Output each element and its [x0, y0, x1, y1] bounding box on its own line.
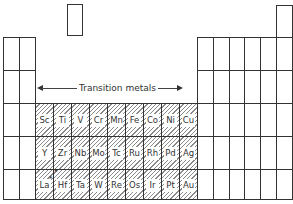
- element-cell: Ru: [125, 136, 144, 170]
- element-symbol: Y: [38, 147, 51, 160]
- p-block-cell: [213, 37, 230, 71]
- p-block-cell: [260, 103, 277, 137]
- p-block-cell: [213, 103, 230, 137]
- element-symbol: Mo: [92, 147, 105, 160]
- element-cell: Ir: [143, 169, 162, 200]
- p-block-cell: [229, 37, 245, 71]
- s-block-cell: [3, 37, 20, 71]
- element-cell: Rh: [143, 136, 162, 170]
- p-block-cell: [276, 103, 293, 137]
- element-cell: Zr: [53, 136, 72, 170]
- element-cell: Mo: [89, 136, 108, 170]
- element-symbol: W: [92, 179, 105, 192]
- element-cell: Tc: [107, 136, 126, 170]
- element-symbol: Ti: [56, 114, 69, 127]
- p-block-cell: [197, 136, 214, 170]
- s-block-cell: [19, 103, 36, 137]
- element-cell: Au: [179, 169, 198, 200]
- element-cell: Mn: [107, 103, 126, 137]
- element-symbol: Sc: [38, 114, 51, 127]
- p-block-cell: [229, 103, 245, 137]
- p-block-cell: [213, 169, 230, 200]
- element-cell: Hf*: [53, 169, 72, 200]
- element-cell: Ni: [161, 103, 180, 137]
- p-block-cell: [276, 70, 293, 104]
- element-cell: Pt: [161, 169, 180, 200]
- p-block-cell: [213, 70, 230, 104]
- p-block-cell: [276, 37, 293, 71]
- element-cell: Nb: [71, 136, 90, 170]
- element-cell: Co: [143, 103, 162, 137]
- element-symbol: Ni: [164, 114, 177, 127]
- element-symbol: Ag: [182, 147, 195, 160]
- p-block-cell: [276, 136, 293, 170]
- p-block-cell: [213, 136, 230, 170]
- p-block-cell: [244, 169, 261, 200]
- element-cell: V: [71, 103, 90, 137]
- element-symbol: Mn: [110, 114, 123, 127]
- element-symbol: Ir: [146, 179, 159, 192]
- element-symbol: Rh: [146, 147, 159, 160]
- p-block-cell: [229, 169, 245, 200]
- actinide-marker: *: [54, 168, 58, 176]
- p-block-cell: [197, 37, 214, 71]
- element-symbol: V: [74, 114, 87, 127]
- element-cell: W: [89, 169, 108, 200]
- p-block-cell: [244, 70, 261, 104]
- element-cell: Pd: [161, 136, 180, 170]
- element-symbol: Ta: [74, 179, 87, 192]
- p-block-cell: [229, 136, 245, 170]
- p-block-cell: [244, 103, 261, 137]
- element-symbol: Pt: [164, 179, 177, 192]
- p-block-cell: [260, 37, 277, 71]
- element-symbol: Cr: [92, 114, 105, 127]
- element-symbol: Fe: [128, 114, 141, 127]
- element-cell: Cu: [179, 103, 198, 137]
- element-symbol: Tc: [110, 147, 123, 160]
- element-cell: Os: [125, 169, 144, 200]
- element-cell: Sc: [35, 103, 54, 137]
- element-cell: Ta: [71, 169, 90, 200]
- s-block-cell: [3, 136, 20, 170]
- s-block-cell: [19, 70, 36, 104]
- element-cell: Y: [35, 136, 54, 170]
- element-symbol: Ru: [128, 147, 141, 160]
- element-cell: Ti: [53, 103, 72, 137]
- element-symbol: Au: [182, 179, 195, 192]
- element-symbol: Zr: [56, 147, 69, 160]
- element-symbol: Re: [110, 179, 123, 192]
- p-block-cell: [197, 103, 214, 137]
- s-block-cell: [19, 169, 36, 200]
- s-block-cell: [3, 169, 20, 200]
- element-symbol: Hf: [56, 179, 69, 192]
- s-block-cell: [3, 70, 20, 104]
- s-block-cell: [19, 136, 36, 170]
- element-symbol: Co: [146, 114, 159, 127]
- p-block-cell: [260, 169, 277, 200]
- p-block-cell: [229, 70, 245, 104]
- transition-metals-text: Transition metals: [77, 82, 158, 94]
- arrow-right-icon: [177, 85, 183, 91]
- element-symbol: Nb: [74, 147, 87, 160]
- element-cell: La*: [35, 169, 54, 200]
- element-cell: Re: [107, 169, 126, 200]
- p-block-cell: [197, 169, 214, 200]
- s-block-cell: [19, 37, 36, 71]
- element-cell: Ag: [179, 136, 198, 170]
- p-block-cell: [244, 37, 261, 71]
- element-symbol: Pd: [164, 147, 177, 160]
- lanthanide-marker: *: [49, 175, 53, 183]
- p-block-cell: [244, 136, 261, 170]
- p-block-cell: [197, 70, 214, 104]
- p-block-cell: [260, 70, 277, 104]
- element-symbol: Cu: [182, 114, 195, 127]
- element-cell: Fe: [125, 103, 144, 137]
- element-symbol: Os: [128, 179, 141, 192]
- s-block-cell: [3, 103, 20, 137]
- helium-cell: [276, 5, 293, 38]
- hydrogen-cell: [67, 4, 83, 36]
- p-block-cell: [276, 169, 293, 200]
- p-block-cell: [260, 136, 277, 170]
- element-cell: Cr: [89, 103, 108, 137]
- transition-metals-label: Transition metals: [37, 82, 183, 94]
